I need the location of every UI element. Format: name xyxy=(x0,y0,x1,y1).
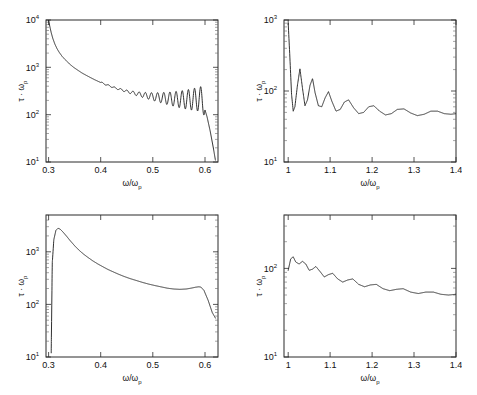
y-tick-label: 102 xyxy=(264,263,278,274)
figure-container: 1011021031040.30.40.50.6ω/ωpτ · ωp101102… xyxy=(0,0,477,395)
plot-frame xyxy=(284,20,456,162)
x-tick-label: 0.5 xyxy=(147,165,160,175)
y-axis-label: τ · ωp xyxy=(254,275,266,297)
x-axis-label: ω/ωp xyxy=(123,178,143,190)
x-tick-label: 1.3 xyxy=(408,360,421,370)
x-axis-label: ω/ωp xyxy=(361,178,381,190)
data-curve xyxy=(288,23,456,115)
x-tick-label: 1.2 xyxy=(366,360,379,370)
y-axis-label: τ · ωp xyxy=(254,80,266,102)
x-tick-label: 1.3 xyxy=(408,165,421,175)
y-tick-label: 101 xyxy=(26,156,40,167)
x-tick-label: 1.4 xyxy=(450,360,462,370)
x-tick-label: 0.4 xyxy=(94,165,107,175)
y-axis-label: τ · ωp xyxy=(16,275,28,297)
y-tick-label: 102 xyxy=(264,85,278,96)
x-tick-label: 0.3 xyxy=(42,360,55,370)
svg-text:τ · ωp: τ · ωp xyxy=(16,275,28,297)
data-curve xyxy=(49,20,216,160)
y-tick-label: 104 xyxy=(26,14,40,25)
y-tick-label: 103 xyxy=(26,246,40,257)
x-tick-label: 1.1 xyxy=(324,165,337,175)
x-axis-label: ω/ωp xyxy=(123,373,143,385)
y-tick-label: 103 xyxy=(264,14,278,25)
y-tick-label: 101 xyxy=(264,156,278,167)
y-tick-label: 101 xyxy=(26,351,40,362)
x-tick-label: 1.2 xyxy=(366,165,379,175)
data-curve xyxy=(51,228,215,353)
x-tick-label: 1.1 xyxy=(324,360,337,370)
y-axis-label: τ · ωp xyxy=(16,80,28,102)
plot-frame xyxy=(284,215,456,357)
plot-panel-bottomright: 10110211.11.21.31.4ω/ωpτ · ωp xyxy=(254,209,462,387)
x-tick-label: 0.4 xyxy=(94,360,107,370)
x-axis-label: ω/ωp xyxy=(361,373,381,385)
x-tick-label: 0.5 xyxy=(147,360,160,370)
y-tick-label: 101 xyxy=(264,351,278,362)
svg-text:τ · ωp: τ · ωp xyxy=(16,80,28,102)
x-tick-label: 1 xyxy=(286,165,291,175)
x-tick-label: 1.4 xyxy=(450,165,462,175)
x-tick-label: 1 xyxy=(286,360,291,370)
svg-text:τ · ωp: τ · ωp xyxy=(254,80,266,102)
x-tick-label: 0.6 xyxy=(199,360,212,370)
plot-panel-topleft: 1011021031040.30.40.50.6ω/ωpτ · ωp xyxy=(16,14,224,192)
x-tick-label: 0.6 xyxy=(199,165,212,175)
y-tick-label: 103 xyxy=(26,62,40,73)
plot-panel-bottomleft: 1011021030.30.40.50.6ω/ωpτ · ωp xyxy=(16,209,224,387)
plot-frame xyxy=(46,20,218,162)
plot-frame xyxy=(46,215,218,357)
svg-text:τ · ωp: τ · ωp xyxy=(254,275,266,297)
plot-panel-topright: 10110210311.11.21.31.4ω/ωpτ · ωp xyxy=(254,14,462,192)
y-tick-label: 102 xyxy=(26,109,40,120)
data-curve xyxy=(288,257,456,295)
x-tick-label: 0.3 xyxy=(42,165,55,175)
y-tick-label: 102 xyxy=(26,299,40,310)
